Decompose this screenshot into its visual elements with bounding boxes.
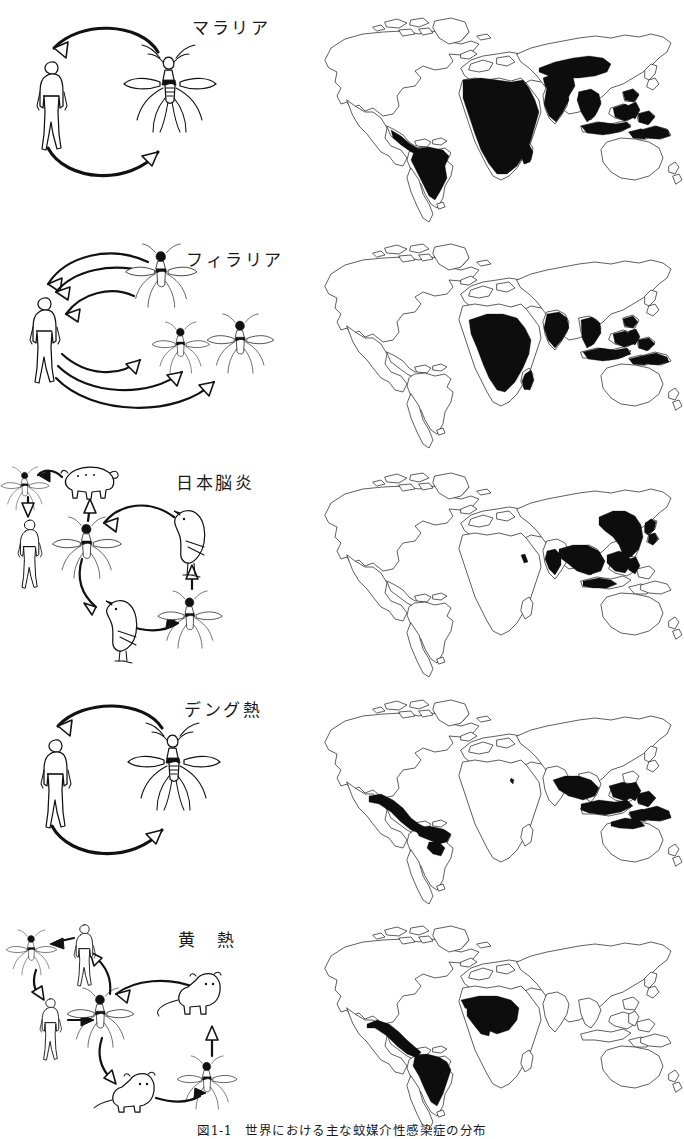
icon-human-top xyxy=(74,925,96,986)
cycle-diagram-malaria xyxy=(0,0,300,210)
row-japanese-encephalitis: 日本脳炎 xyxy=(0,455,684,665)
row-malaria: マラリア xyxy=(0,0,684,210)
cycle-diagram-filaria xyxy=(0,226,300,436)
icon-mosquito-center xyxy=(152,322,210,373)
icon-human xyxy=(37,62,67,150)
cycle-diagram-yellow-fever xyxy=(0,908,300,1118)
distribution-map-japanese-encephalitis xyxy=(305,455,684,665)
cycle-diagram-japanese-encephalitis xyxy=(0,455,300,665)
icon-mosquito-upper xyxy=(126,244,197,307)
distribution-map-malaria xyxy=(305,0,684,210)
icon-human xyxy=(30,298,60,383)
icon-human xyxy=(41,740,71,828)
icon-bird-bottom xyxy=(106,601,137,663)
icon-mosquito-right xyxy=(207,314,274,373)
row-dengue: デング熱 xyxy=(0,682,684,892)
icon-monkey-bottom xyxy=(94,1072,155,1112)
icon-mosquito xyxy=(124,45,216,132)
figure-caption: 図1-1 世界における主な蚊媒介性感染症の分布 xyxy=(0,1120,684,1139)
icon-human xyxy=(18,520,42,588)
distribution-map-dengue xyxy=(305,682,684,892)
icon-mosquito xyxy=(128,723,220,810)
row-yellow-fever: 黄 熱 xyxy=(0,908,684,1118)
icon-mosquito-lower-right xyxy=(158,591,222,648)
icon-human-left xyxy=(40,999,62,1060)
distribution-map-yellow-fever xyxy=(305,908,684,1118)
icon-bird-right xyxy=(174,511,205,577)
cycle-diagram-dengue xyxy=(0,682,300,892)
icon-mosquito-upper-left xyxy=(6,930,57,975)
icon-monkey-right xyxy=(158,972,221,1016)
icon-pig xyxy=(61,467,118,499)
distribution-map-filaria xyxy=(305,226,684,436)
row-filaria: フィラリア xyxy=(0,226,684,436)
